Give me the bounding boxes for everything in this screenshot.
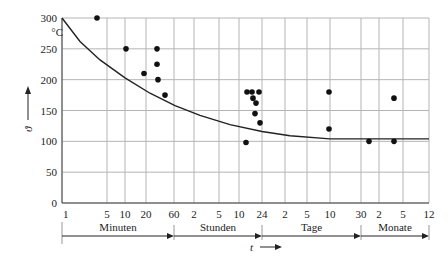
data-point: [326, 126, 332, 132]
y-axis-symbol: ϑ: [22, 126, 34, 132]
segment-label: Monate: [378, 221, 412, 233]
y-tick-label: 200: [41, 74, 58, 86]
data-point: [141, 71, 147, 77]
x-tick-label: 10: [234, 208, 246, 220]
limit-curve: [62, 18, 429, 139]
x-tick-label: 20: [141, 208, 153, 220]
segment-label: Stunden: [200, 221, 237, 233]
time-segments: MinutenStundenTageMonate: [62, 221, 429, 244]
segment-label: Tage: [301, 221, 322, 233]
data-point: [94, 15, 100, 21]
data-point: [154, 46, 160, 52]
y-tick-label: 300: [41, 12, 58, 24]
x-tick-label: 2: [191, 208, 197, 220]
x-tick-label: 1: [63, 208, 69, 220]
data-point: [155, 77, 161, 83]
data-points: [94, 15, 397, 145]
data-point: [391, 95, 397, 101]
x-tick-label: 10: [120, 208, 132, 220]
data-point: [250, 95, 256, 101]
y-tick-label: 100: [41, 135, 58, 147]
x-tick-label: 5: [304, 208, 310, 220]
x-axis-symbol: t: [250, 241, 254, 253]
data-point: [244, 89, 250, 95]
y-axis-label: ϑ: [22, 86, 34, 132]
x-axis-label: t: [250, 241, 282, 253]
x-tick-label: 5: [104, 208, 110, 220]
chart: 050100150200250300 151020602510242510302…: [0, 0, 448, 269]
data-point: [249, 89, 255, 95]
x-tick-labels: 151020602510242510302512: [63, 208, 435, 220]
x-tick-label: 60: [169, 208, 181, 220]
y-tick-label: 0: [52, 197, 58, 209]
y-tick-labels: 050100150200250300: [41, 12, 58, 209]
x-tick-label: 2: [376, 208, 382, 220]
x-tick-label: 5: [216, 208, 222, 220]
y-tick-label: 250: [41, 43, 58, 55]
data-point: [366, 139, 372, 145]
data-point: [162, 92, 168, 98]
data-point: [253, 100, 259, 106]
grid: [62, 18, 429, 203]
x-tick-label: 12: [424, 208, 435, 220]
x-tick-label: 10: [325, 208, 337, 220]
data-point: [391, 139, 397, 145]
data-point: [123, 46, 129, 52]
x-tick-label: 5: [400, 208, 406, 220]
segment-label: Minuten: [99, 221, 137, 233]
data-point: [154, 61, 160, 67]
x-tick-label: 30: [356, 208, 368, 220]
data-point: [243, 140, 249, 146]
y-unit-label: °C: [51, 26, 63, 38]
x-tick-label: 2: [282, 208, 288, 220]
data-point: [252, 111, 258, 117]
y-tick-label: 150: [41, 105, 58, 117]
x-tick-label: 24: [257, 208, 269, 220]
data-point: [257, 120, 263, 126]
y-tick-label: 50: [46, 166, 58, 178]
data-point: [326, 89, 332, 95]
data-point: [256, 89, 262, 95]
